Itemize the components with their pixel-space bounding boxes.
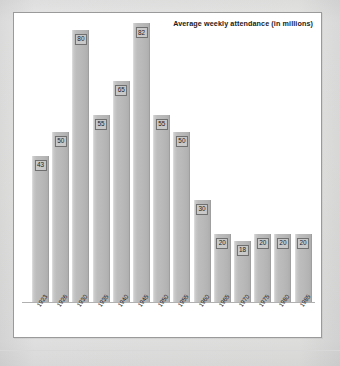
- plot-area: 4350805565825550302018202020 19231926193…: [22, 19, 315, 337]
- bar-value-label: 20: [297, 238, 309, 249]
- bar-1940: 65: [113, 19, 130, 302]
- bar-1923: 43: [32, 19, 49, 302]
- bar-rect: 55: [93, 115, 110, 302]
- bar-rect: 55: [153, 115, 170, 302]
- bar-value-label: 55: [156, 119, 168, 130]
- bar-1945: 82: [133, 19, 150, 302]
- bar-value-label: 55: [95, 119, 107, 130]
- bar-value-label: 43: [34, 160, 46, 171]
- bar-1955: 50: [173, 19, 190, 302]
- bar-value-label: 20: [257, 238, 269, 249]
- bar-rect: 50: [52, 132, 69, 302]
- bar-1960: 30: [194, 19, 211, 302]
- bar-rect: 20: [214, 234, 231, 302]
- bar-1930: 80: [72, 19, 89, 302]
- bar-1975: 20: [254, 19, 271, 302]
- bar-1935: 55: [93, 19, 110, 302]
- bar-1926: 50: [52, 19, 69, 302]
- bar-value-label: 50: [55, 136, 67, 147]
- bar-rect: 82: [133, 23, 150, 302]
- bar-1965: 20: [214, 19, 231, 302]
- bar-1970: 18: [234, 19, 251, 302]
- bar-rect: 20: [274, 234, 291, 302]
- bar-rect: 65: [113, 81, 130, 302]
- bar-1985: 20: [295, 19, 312, 302]
- bar-rect: 50: [173, 132, 190, 302]
- bar-series: 4350805565825550302018202020: [22, 19, 315, 302]
- bar-rect: 43: [32, 156, 49, 302]
- bar-value-label: 18: [236, 245, 248, 256]
- x-axis-tick-labels: 1923192619301935194019451950195519601965…: [22, 302, 315, 342]
- bar-value-label: 50: [176, 136, 188, 147]
- bar-value-label: 82: [135, 27, 147, 38]
- bar-rect: 30: [194, 200, 211, 302]
- bar-value-label: 80: [75, 34, 87, 45]
- bar-value-label: 65: [115, 85, 127, 96]
- chart-frame: Average weekly attendance (in millions) …: [13, 12, 322, 338]
- bar-value-label: 30: [196, 204, 208, 215]
- bar-rect: 20: [254, 234, 271, 302]
- bar-rect: 20: [295, 234, 312, 302]
- page-bottom-divider: [0, 350, 340, 351]
- bar-rect: 80: [72, 30, 89, 302]
- bar-value-label: 20: [216, 238, 228, 249]
- bar-1980: 20: [274, 19, 291, 302]
- bar-1950: 55: [153, 19, 170, 302]
- bar-rect: 18: [234, 241, 251, 302]
- bar-value-label: 20: [277, 238, 289, 249]
